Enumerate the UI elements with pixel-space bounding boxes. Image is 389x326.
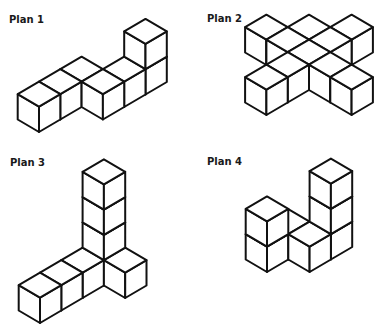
plan-3-cubes [19,159,147,323]
isometric-drawing [0,0,389,326]
plan-4-cubes [246,159,353,272]
plan-1-cubes [18,19,167,132]
plan-2-cubes [245,15,373,115]
